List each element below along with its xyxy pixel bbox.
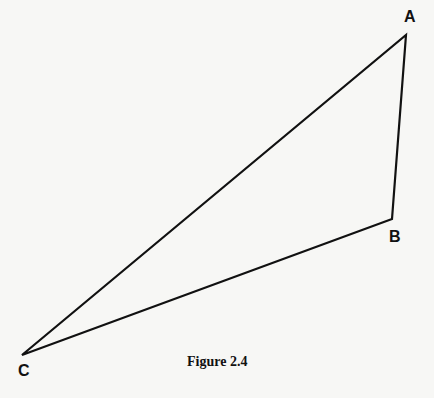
triangle-diagram bbox=[0, 0, 434, 398]
triangle-abc bbox=[22, 35, 406, 355]
vertex-label-c: C bbox=[18, 362, 30, 380]
vertex-label-b: B bbox=[389, 228, 401, 246]
figure-caption: Figure 2.4 bbox=[187, 354, 247, 370]
vertex-label-a: A bbox=[404, 8, 416, 26]
